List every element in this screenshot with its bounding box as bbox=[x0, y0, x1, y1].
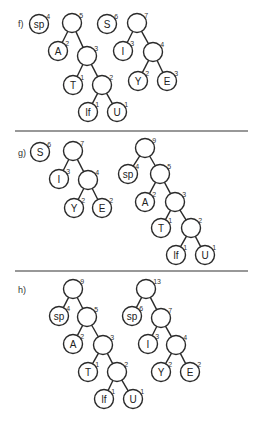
node-symbol: lf bbox=[174, 250, 179, 261]
node-weight: 7 bbox=[80, 140, 84, 147]
leaf-node-i: I3 bbox=[139, 333, 160, 354]
node-weight: 3 bbox=[66, 168, 70, 175]
internal-node: 7 bbox=[64, 140, 85, 161]
tree-edge bbox=[92, 325, 99, 337]
node-weight: 2 bbox=[198, 217, 202, 224]
node-weight: 3 bbox=[182, 191, 186, 198]
node-weight: 5 bbox=[94, 306, 98, 313]
internal-node: 9 bbox=[64, 278, 85, 299]
tree-edge bbox=[157, 61, 163, 73]
node-weight: 13 bbox=[153, 278, 161, 285]
node-symbol: Y bbox=[158, 367, 165, 378]
tree-edge bbox=[150, 156, 156, 166]
leaf-node-lf: lf1 bbox=[95, 388, 116, 409]
node-weight: 9 bbox=[152, 137, 156, 144]
tree-edge bbox=[150, 297, 156, 309]
tree-edge bbox=[142, 31, 149, 43]
leaf-node-lf: lf1 bbox=[167, 244, 188, 265]
tree-edge bbox=[180, 210, 186, 220]
leaf-node-lf: lf1 bbox=[79, 101, 100, 122]
leaf-node-u: U1 bbox=[108, 101, 129, 122]
internal-node: 3 bbox=[166, 191, 187, 212]
leaf-node-u: U1 bbox=[124, 388, 145, 409]
tree-edge bbox=[76, 32, 83, 48]
node-weight: 1 bbox=[111, 388, 115, 395]
leaf-node-i: I3 bbox=[50, 168, 71, 189]
node-weight: 1 bbox=[80, 74, 84, 81]
node-weight: 1 bbox=[212, 244, 216, 251]
node-weight: 4 bbox=[183, 334, 187, 341]
internal-node: 3 bbox=[78, 45, 99, 66]
node-symbol: A bbox=[70, 339, 77, 350]
node-weight: 4 bbox=[66, 305, 70, 312]
tree-edge bbox=[91, 64, 97, 76]
node-symbol: sp bbox=[123, 169, 134, 180]
node-weight: 1 bbox=[183, 244, 187, 251]
leaf-node-u: U1 bbox=[196, 244, 217, 265]
node-symbol: T bbox=[85, 367, 91, 378]
node-weight: 2 bbox=[168, 361, 172, 368]
leaf-node-sp: sp4 bbox=[119, 163, 140, 184]
leaf-node-e: E2 bbox=[181, 361, 202, 382]
panel-labels: f)g)h) bbox=[18, 19, 26, 295]
internal-node: 2 bbox=[108, 361, 129, 382]
node-symbol: E bbox=[99, 203, 106, 214]
panel-label: g) bbox=[18, 148, 26, 158]
tree-edge bbox=[107, 93, 113, 103]
internal-node: 9 bbox=[136, 137, 157, 158]
node-weight: 3 bbox=[94, 45, 98, 52]
node-weight: 2 bbox=[124, 361, 128, 368]
internal-node: 7 bbox=[152, 307, 173, 328]
node-symbol: E bbox=[187, 367, 194, 378]
node-symbol: T bbox=[70, 80, 76, 91]
leaf-node-a: A2 bbox=[49, 40, 70, 61]
node-symbol: Y bbox=[135, 76, 142, 87]
leaf-node-t: T1 bbox=[79, 361, 100, 382]
internal-node: 5 bbox=[63, 12, 84, 33]
node-symbol: sp bbox=[34, 19, 45, 30]
leaf-node-y: Y2 bbox=[65, 197, 86, 218]
node-weight: 2 bbox=[109, 74, 113, 81]
node-weight: 4 bbox=[46, 13, 50, 20]
internal-node: 3 bbox=[94, 334, 115, 355]
node-symbol: S bbox=[37, 147, 44, 158]
tree-edge bbox=[92, 188, 98, 199]
node-weight: 2 bbox=[145, 70, 149, 77]
node-weight: 7 bbox=[144, 12, 148, 19]
tree-edge bbox=[77, 297, 83, 308]
leaf-node-y: Y2 bbox=[129, 70, 150, 91]
leaf-node-t: T1 bbox=[152, 217, 173, 238]
tree-edge bbox=[77, 159, 83, 171]
tree-edge bbox=[195, 236, 200, 246]
node-symbol: A bbox=[55, 46, 62, 57]
tree-edge bbox=[122, 380, 128, 391]
internal-node: 5 bbox=[151, 163, 172, 184]
node-symbol: U bbox=[113, 107, 120, 118]
node-symbol: A bbox=[142, 197, 149, 208]
leaf-node-e: E3 bbox=[158, 70, 179, 91]
leaf-node-s: S6 bbox=[98, 13, 119, 34]
internal-node: 2 bbox=[182, 217, 203, 238]
leaf-node-e: E2 bbox=[93, 197, 114, 218]
tree-edge bbox=[166, 326, 172, 336]
tree-nodes: sp45A23T12lf1U1S67I34Y2E3S67I34Y2E29sp45… bbox=[30, 12, 217, 409]
node-weight: 4 bbox=[135, 163, 139, 170]
leaf-node-sp: sp6 bbox=[123, 305, 144, 326]
node-symbol: I bbox=[58, 174, 61, 185]
node-symbol: Y bbox=[71, 203, 78, 214]
node-weight: 4 bbox=[160, 41, 164, 48]
internal-node: 4 bbox=[79, 169, 100, 190]
node-weight: 1 bbox=[95, 361, 99, 368]
node-weight: 1 bbox=[95, 101, 99, 108]
node-weight: 2 bbox=[81, 197, 85, 204]
tree-edge bbox=[107, 353, 112, 363]
leaf-node-s: S6 bbox=[31, 141, 52, 162]
tree-edge bbox=[180, 353, 185, 363]
node-weight: 1 bbox=[124, 101, 128, 108]
panel-label: h) bbox=[18, 285, 26, 295]
leaf-node-sp: sp4 bbox=[50, 305, 71, 326]
leaf-node-i: I3 bbox=[114, 40, 135, 61]
node-weight: 5 bbox=[79, 12, 83, 19]
node-weight: 3 bbox=[130, 40, 134, 47]
leaf-node-sp: sp4 bbox=[30, 13, 51, 34]
